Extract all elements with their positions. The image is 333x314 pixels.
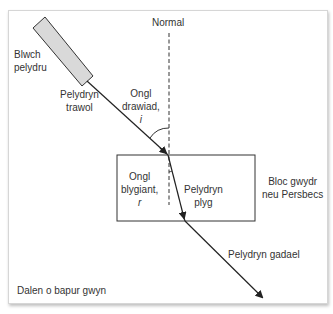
angle-refraction-label: Ongl blygiant, r [121, 170, 158, 209]
refraction-diagram [0, 0, 333, 314]
refracted-ray-label: Pelydryn plyg [184, 183, 223, 209]
normal-label: Normal [152, 16, 184, 29]
refracted-ray [168, 155, 184, 218]
emergent-ray-label: Pelydryn gadael [228, 248, 300, 261]
incident-ray-label: Pelydryn trawol [60, 88, 99, 114]
angle-incidence-arc [150, 128, 169, 138]
paper-label: Dalen o bapur gwyn [17, 284, 106, 297]
ray-box-label: Blwch pelydru [14, 48, 47, 74]
angle-incidence-label: Ongl drawiad, i [122, 87, 160, 126]
glass-block-label: Bloc gwydr neu Persbecs [262, 175, 323, 201]
